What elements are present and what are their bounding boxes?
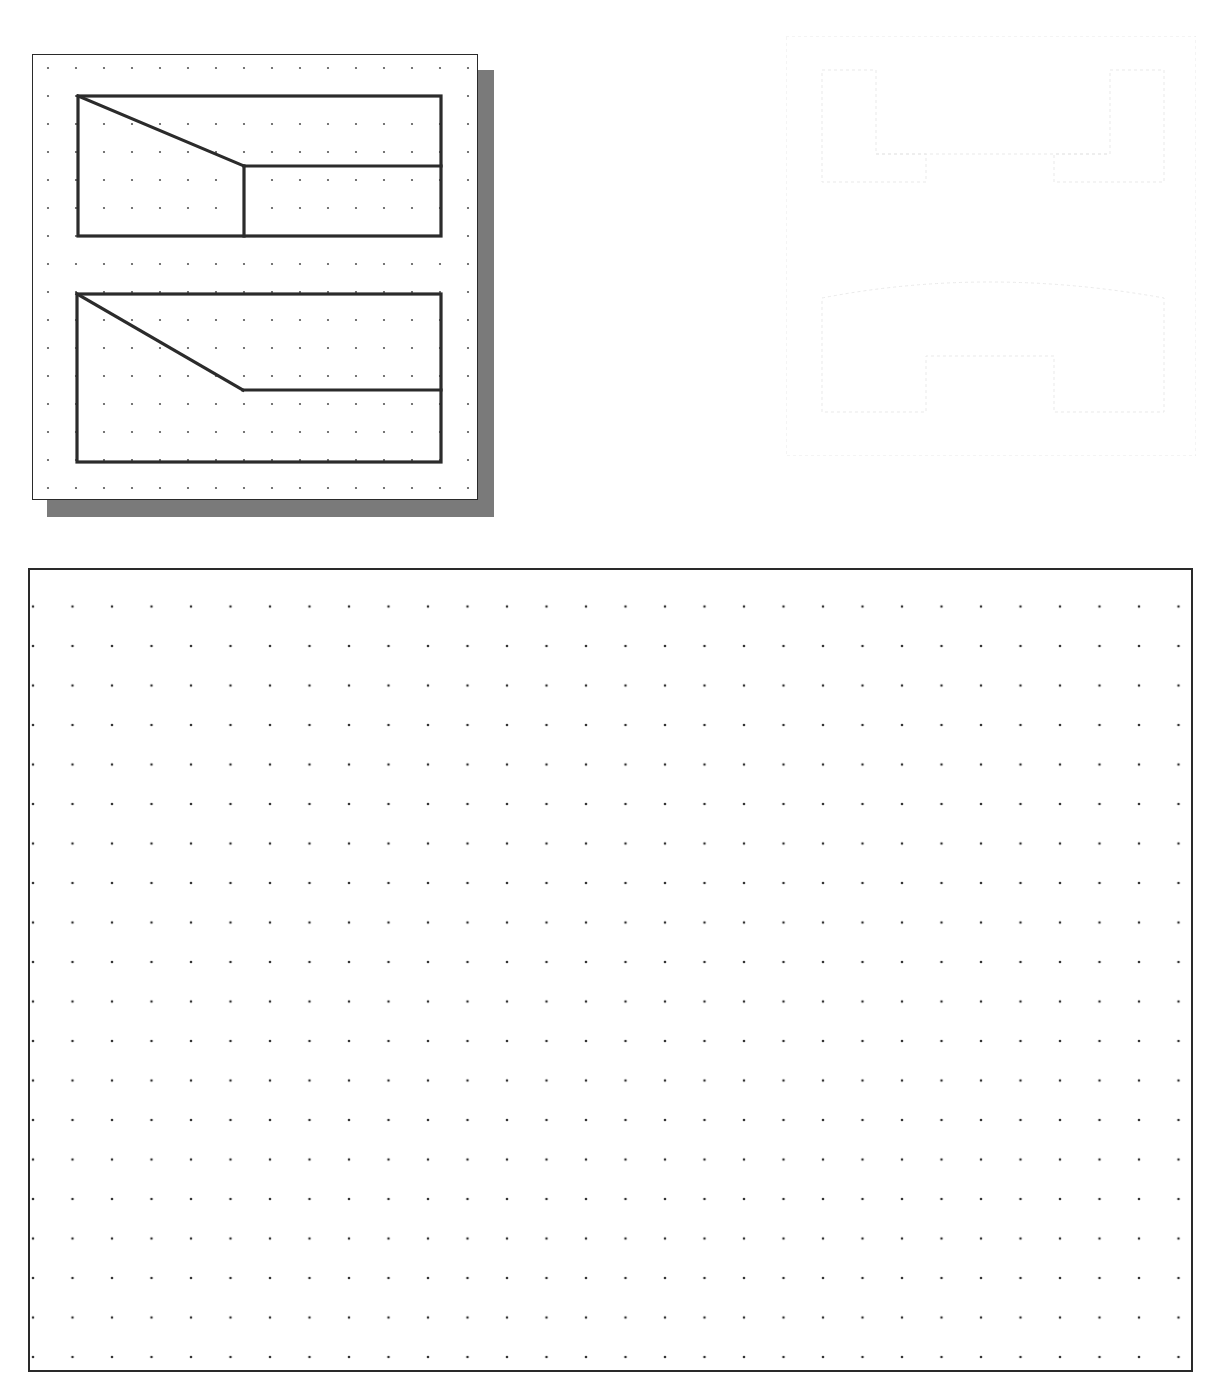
reference-views (33, 55, 479, 501)
bleed-through-artifact (786, 36, 1196, 456)
reference-panel (32, 54, 478, 500)
top-view (78, 96, 441, 236)
sketch-grid-area[interactable]: Blank dot-grid sketching area (28, 568, 1193, 1372)
sketch-dot-grid (30, 570, 1195, 1374)
front-view (77, 294, 441, 462)
